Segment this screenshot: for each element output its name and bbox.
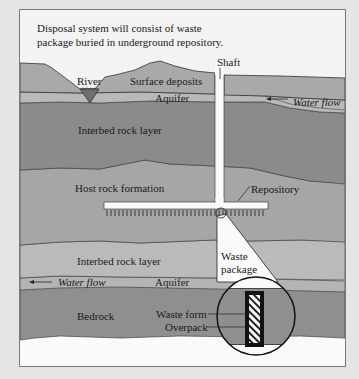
repository	[104, 202, 268, 209]
label-surface-deposits: Surface deposits	[130, 75, 202, 87]
label-aquifer-upper: Aquifer	[155, 92, 190, 104]
label-river: River	[77, 75, 102, 87]
label-waste-package-1: Waste	[221, 250, 248, 262]
label-interbed-lower: Interbed rock layer	[77, 255, 161, 267]
label-water-flow-upper: Water flow	[293, 96, 341, 108]
label-waste-package-2: package	[221, 263, 257, 275]
label-repository: Repository	[251, 183, 300, 195]
label-overpack: Overpack	[165, 321, 208, 333]
label-waste-form: Waste form	[156, 308, 207, 320]
label-water-flow-lower: Water flow	[58, 276, 106, 288]
waste-form	[249, 295, 260, 343]
label-aquifer-lower: Aquifer	[155, 276, 190, 288]
caption-line-2: package buried in underground repository…	[37, 36, 224, 48]
label-host-rock: Host rock formation	[75, 182, 165, 194]
label-shaft: Shaft	[217, 56, 240, 68]
label-bedrock: Bedrock	[77, 310, 115, 322]
interbed-lower-layer	[20, 240, 345, 280]
shaft	[215, 60, 224, 205]
caption-line-1: Disposal system will consist of waste	[37, 22, 202, 34]
waste-disposal-diagram: Disposal system will consist of waste pa…	[0, 0, 359, 379]
label-interbed-upper: Interbed rock layer	[78, 124, 162, 136]
